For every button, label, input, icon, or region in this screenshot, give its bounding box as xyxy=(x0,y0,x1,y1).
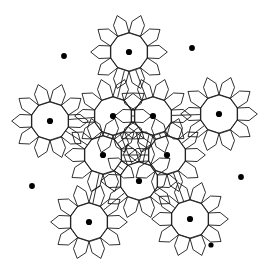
center-dot-mid-right xyxy=(150,113,156,119)
center-dot-bottom-left xyxy=(86,219,92,225)
center-dot-center-left xyxy=(100,152,106,158)
girih-link-6-7 xyxy=(153,168,154,169)
center-dot-left-upper xyxy=(47,118,53,124)
center-dot-mid-left xyxy=(110,113,116,119)
isolated-dot-left xyxy=(29,183,35,189)
tiling-figure xyxy=(0,0,272,279)
isolated-dot-right xyxy=(238,174,244,180)
center-dot-bottom-right xyxy=(187,216,193,222)
center-dot-center-lower xyxy=(136,178,142,184)
canvas-background xyxy=(0,0,272,279)
center-dot-top xyxy=(126,49,132,55)
tiling-canvas xyxy=(0,0,272,279)
isolated-dot-top-left xyxy=(61,53,67,59)
center-dot-center-right xyxy=(164,152,170,158)
center-dot-right-upper xyxy=(216,111,222,117)
satellite-dot-pentagon-bottom-right xyxy=(208,242,213,247)
isolated-dot-top-right xyxy=(189,45,195,51)
